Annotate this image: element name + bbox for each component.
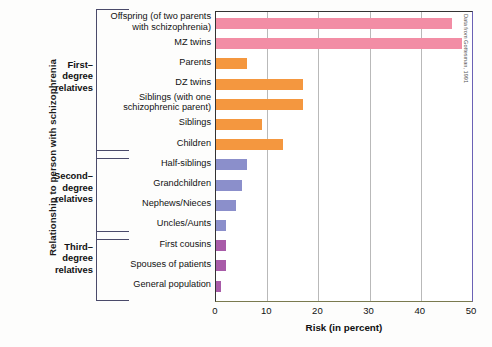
bar bbox=[216, 180, 242, 191]
x-tick-label: 50 bbox=[456, 305, 486, 316]
bar bbox=[216, 79, 303, 90]
category-labels-column: Offspring (of two parentswith schizophre… bbox=[96, 8, 214, 303]
category-label-line: Half-siblings bbox=[93, 158, 211, 168]
category-label-line: Siblings bbox=[93, 117, 211, 127]
group-label-line: relatives bbox=[31, 264, 93, 275]
group-label-line: relatives bbox=[31, 193, 93, 204]
category-label: Siblings (with oneschizophrenic parent) bbox=[93, 92, 211, 112]
category-label: Grandchildren bbox=[93, 178, 211, 188]
x-tick-label: 30 bbox=[354, 305, 384, 316]
category-label-line: schizophrenic parent) bbox=[93, 102, 211, 112]
gridline-20 bbox=[318, 12, 319, 301]
group-label-line: Second– bbox=[31, 170, 93, 181]
x-tick-label: 0 bbox=[200, 305, 230, 316]
group-label: Second–degreerelatives bbox=[31, 170, 93, 204]
plot-area bbox=[215, 11, 473, 302]
gridline-30 bbox=[370, 12, 371, 301]
category-label-line: Spouses of patients bbox=[93, 259, 211, 269]
category-label-line: General population bbox=[93, 279, 211, 289]
group-label-line: First– bbox=[31, 59, 93, 70]
bar bbox=[216, 260, 226, 271]
group-label-line: degree bbox=[31, 70, 93, 81]
bar bbox=[216, 139, 283, 150]
category-label: Nephews/Nieces bbox=[93, 198, 211, 208]
category-label-line: DZ twins bbox=[93, 77, 211, 87]
category-label: Parents bbox=[93, 57, 211, 67]
gridline-50 bbox=[472, 12, 473, 301]
x-tick-label: 40 bbox=[405, 305, 435, 316]
bar bbox=[216, 38, 462, 49]
x-tick-label: 10 bbox=[251, 305, 281, 316]
category-label-line: Parents bbox=[93, 57, 211, 67]
group-label: Third–degreerelatives bbox=[31, 241, 93, 275]
bar bbox=[216, 281, 221, 292]
category-label-line: Grandchildren bbox=[93, 178, 211, 188]
category-label: Spouses of patients bbox=[93, 259, 211, 269]
bar bbox=[216, 159, 247, 170]
bar bbox=[216, 220, 226, 231]
gridline-40 bbox=[421, 12, 422, 301]
bar bbox=[216, 58, 247, 69]
bar bbox=[216, 200, 236, 211]
category-label: First cousins bbox=[93, 239, 211, 249]
x-tick-label: 20 bbox=[302, 305, 332, 316]
category-label-line: Uncles/Aunts bbox=[93, 218, 211, 228]
category-label: DZ twins bbox=[93, 77, 211, 87]
group-label-line: Third– bbox=[31, 241, 93, 252]
category-label: Half-siblings bbox=[93, 158, 211, 168]
category-label-line: First cousins bbox=[93, 239, 211, 249]
category-label: Siblings bbox=[93, 117, 211, 127]
category-label: General population bbox=[93, 279, 211, 289]
bar bbox=[216, 240, 226, 251]
category-label-line: Children bbox=[93, 138, 211, 148]
bar bbox=[216, 99, 303, 110]
x-axis-title: Risk (in percent) bbox=[215, 322, 473, 333]
category-label-line: Siblings (with one bbox=[93, 92, 211, 102]
category-label: Offspring (of two parentswith schizophre… bbox=[93, 11, 211, 31]
group-label: First–degreerelatives bbox=[31, 59, 93, 93]
group-label-line: relatives bbox=[31, 82, 93, 93]
category-label: MZ twins bbox=[93, 37, 211, 47]
category-label: Children bbox=[93, 138, 211, 148]
category-label: Uncles/Aunts bbox=[93, 218, 211, 228]
category-label-line: Offspring (of two parents bbox=[93, 11, 211, 21]
group-label-line: degree bbox=[31, 182, 93, 193]
bar bbox=[216, 119, 262, 130]
source-attribution-note: Data from Gottesman, 1991 bbox=[349, 14, 469, 26]
category-label-line: with schizophrenia) bbox=[93, 22, 211, 32]
group-label-line: degree bbox=[31, 252, 93, 263]
category-label-line: Nephews/Nieces bbox=[93, 198, 211, 208]
schizophrenia-risk-chart: Relationship to person with schizophreni… bbox=[0, 0, 492, 347]
category-label-line: MZ twins bbox=[93, 37, 211, 47]
gridline-10 bbox=[267, 12, 268, 301]
